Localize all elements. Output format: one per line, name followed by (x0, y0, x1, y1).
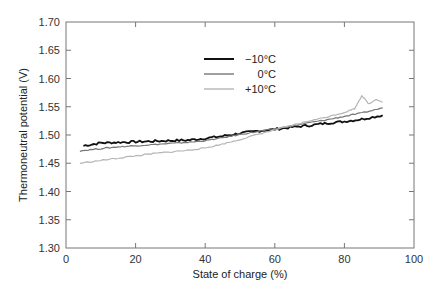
chart: 1.301.351.401.451.501.551.601.651.70 020… (0, 0, 443, 297)
x-tick-label: 0 (63, 253, 69, 265)
y-tick-label: 1.50 (39, 129, 60, 141)
x-tick-label: 40 (199, 253, 211, 265)
y-tick-label: 1.65 (39, 44, 60, 56)
x-axis-label: State of charge (%) (193, 268, 288, 280)
x-tick-label: 100 (405, 253, 423, 265)
series-line (80, 96, 383, 164)
plot-frame (66, 22, 414, 248)
y-tick-label: 1.30 (39, 242, 60, 254)
y-tick-label: 1.35 (39, 214, 60, 226)
legend-label: +10°C (245, 83, 276, 95)
y-tick-label: 1.45 (39, 157, 60, 169)
y-tick-label: 1.55 (39, 101, 60, 113)
y-tick-label: 1.70 (39, 16, 60, 28)
x-tick-label: 80 (338, 253, 350, 265)
x-tick-label: 20 (129, 253, 141, 265)
x-tick-label: 60 (269, 253, 281, 265)
legend-label: 0°C (258, 68, 277, 80)
y-tick-label: 1.40 (39, 186, 60, 198)
legend-label: −10°C (245, 53, 276, 65)
legend: −10°C0°C+10°C (204, 53, 276, 95)
y-axis-label: Thermoneutral potential (V) (17, 68, 29, 202)
y-tick-label: 1.60 (39, 73, 60, 85)
series-group (80, 96, 383, 164)
